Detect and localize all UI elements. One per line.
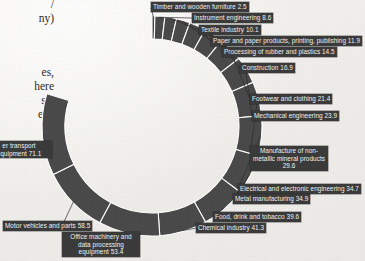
data-label: Office machinery and data processing equ… — [62, 232, 140, 257]
data-label: Food, drink and tobacco 39.6 — [213, 212, 301, 222]
data-label: Electrical and electronic engineering 34… — [238, 184, 361, 194]
donut-segment — [100, 203, 160, 236]
data-label: Timber and wooden furniture 2.5 — [151, 2, 249, 12]
data-label: Paper and paper products, printing, publ… — [211, 36, 362, 46]
data-label: Mechanical engineering 23.9 — [252, 111, 339, 121]
data-label: Instrument engineering 8.6 — [192, 13, 273, 23]
data-label: Motor vehicles and parts 58.5 — [3, 221, 92, 231]
data-label: Chemical industry 41.3 — [196, 223, 266, 233]
data-label: Footwear and clothing 21.4 — [250, 94, 332, 104]
donut-segment — [53, 164, 110, 222]
data-label: Metal manufacturing 34.9 — [233, 194, 310, 204]
data-label: Processing of rubber and plastics 14.5 — [222, 47, 337, 57]
data-label: Textile industry 10.1 — [199, 25, 261, 35]
data-label: Manufacture of non-metallic mineral prod… — [250, 146, 328, 171]
donut-segment — [42, 94, 74, 175]
data-label: er transport equipment 71.1 — [0, 141, 52, 158]
data-label: Construction 16.9 — [240, 63, 295, 73]
